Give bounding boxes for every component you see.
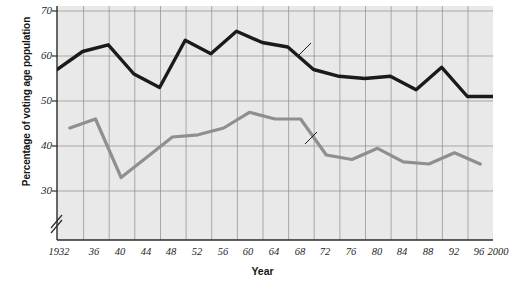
plot-area xyxy=(0,0,525,290)
voter-turnout-chart: Percentage of voting age population Year… xyxy=(0,0,525,290)
plot-background xyxy=(57,6,493,240)
y-tick-marks xyxy=(52,11,57,191)
